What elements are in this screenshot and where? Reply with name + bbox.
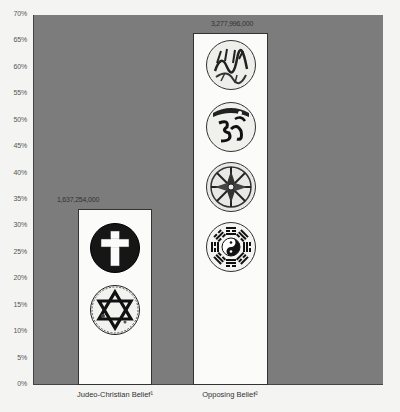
y-tick: 20% bbox=[0, 279, 33, 289]
y-tick-label: 55% bbox=[14, 89, 27, 96]
christian-cross-icon bbox=[90, 223, 140, 273]
star-of-david-icon bbox=[90, 285, 140, 335]
y-tick: 55% bbox=[0, 94, 33, 104]
y-tick: 65% bbox=[0, 41, 33, 51]
y-tick-label: 20% bbox=[14, 274, 27, 281]
bar-opposing bbox=[193, 33, 268, 385]
yin-yang-bagua-icon bbox=[206, 222, 256, 272]
bar-value-label-judeo-christian: 1,637,254,000 bbox=[28, 196, 128, 203]
y-tick-label: 25% bbox=[14, 248, 27, 255]
y-tick: 0% bbox=[0, 385, 33, 395]
islamic-calligraphy-icon bbox=[206, 40, 256, 90]
y-tick: 70% bbox=[0, 15, 33, 25]
hindu-om-icon bbox=[206, 102, 256, 152]
y-tick-label: 10% bbox=[14, 327, 27, 334]
y-tick-label: 45% bbox=[14, 142, 27, 149]
dharma-wheel-icon bbox=[206, 162, 256, 212]
y-tick: 15% bbox=[0, 306, 33, 316]
y-tick-label: 0% bbox=[17, 380, 27, 387]
y-tick-label: 50% bbox=[14, 116, 27, 123]
y-tick: 30% bbox=[0, 226, 33, 236]
y-tick-label: 35% bbox=[14, 195, 27, 202]
y-tick: 10% bbox=[0, 332, 33, 342]
bar-judeo-christian bbox=[78, 209, 152, 385]
y-tick: 50% bbox=[0, 121, 33, 131]
x-label-opposing: Opposing Belief² bbox=[165, 390, 295, 399]
y-tick-label: 5% bbox=[17, 354, 27, 361]
x-label-judeo-christian: Judeo-Christian Belief¹ bbox=[50, 390, 180, 399]
y-tick-label: 60% bbox=[14, 63, 27, 70]
y-tick-label: 15% bbox=[14, 301, 27, 308]
y-tick-label: 30% bbox=[14, 221, 27, 228]
plot-area: 1,637,254,000 3,277,996,000 bbox=[33, 15, 383, 385]
y-tick: 25% bbox=[0, 253, 33, 263]
y-tick: 40% bbox=[0, 174, 33, 184]
bar-value-label-opposing: 3,277,996,000 bbox=[182, 20, 282, 27]
y-tick-label: 40% bbox=[14, 169, 27, 176]
y-tick-label: 70% bbox=[14, 10, 27, 17]
y-tick: 45% bbox=[0, 147, 33, 157]
y-tick-label: 65% bbox=[14, 36, 27, 43]
y-tick: 5% bbox=[0, 359, 33, 369]
cut-off-top-text bbox=[140, 0, 260, 4]
y-tick: 60% bbox=[0, 68, 33, 78]
